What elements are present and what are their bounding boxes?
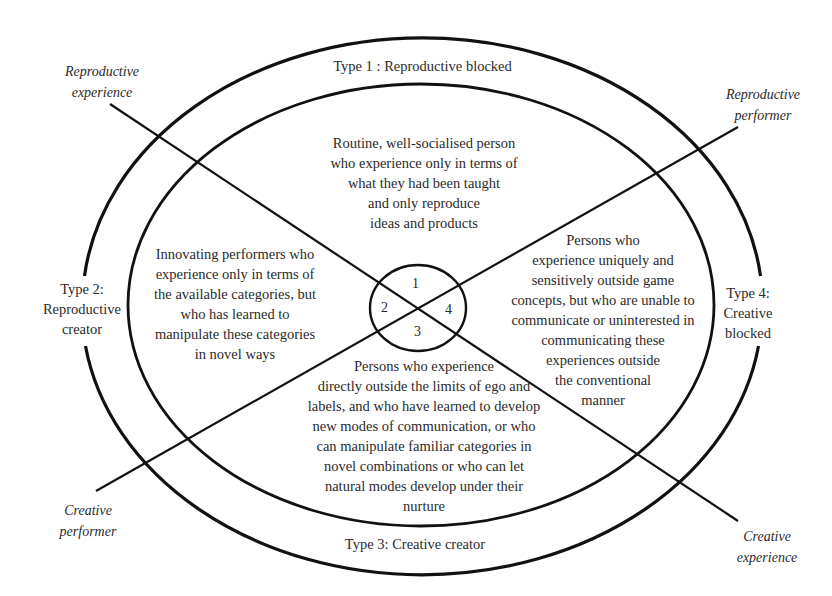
type3-label: Type 3: Creative creator	[330, 534, 500, 554]
center-number-4: 4	[445, 302, 452, 318]
creative-performer-label: Creative performer	[48, 500, 128, 542]
quadrant4-description: Persons who experience uniquely and sens…	[496, 230, 710, 410]
creative-experience-label: Creative experience	[727, 526, 807, 568]
center-number-1: 1	[412, 276, 419, 292]
type2-label: Type 2: Reproductive creator	[32, 279, 132, 339]
reproductive-performer-label: Reproductive performer	[708, 84, 818, 126]
quadrant1-description: Routine, well-socialised person who expe…	[314, 133, 534, 233]
type4-label: Type 4: Creative blocked	[712, 283, 784, 343]
reproductive-experience-label: Reproductive experience	[52, 61, 152, 103]
center-number-2: 2	[381, 300, 388, 316]
quadrant2-description: Innovating performers who experience onl…	[140, 244, 330, 364]
type1-label: Type 1 : Reproductive blocked	[300, 56, 545, 76]
center-number-3: 3	[414, 324, 421, 340]
